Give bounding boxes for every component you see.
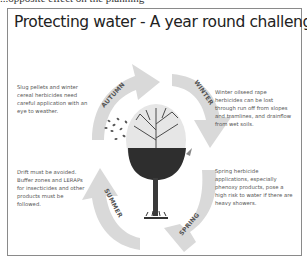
summer-arrow-icon: SUMMER	[82, 168, 140, 250]
tree-icon	[126, 104, 192, 218]
winter-note: Winter oilseed rape herbicides can be lo…	[215, 88, 295, 128]
falling-leaves-icon	[104, 117, 127, 140]
summer-note: Drift must be avoided. Buffer zones and …	[17, 168, 85, 208]
season-cycle-diagram: AUTUMN WINTER SPRING SUMMER	[0, 0, 307, 262]
spring-note: Spring herbicide applications, especiall…	[215, 167, 293, 207]
autumn-note: Slug pellets and winter cereal herbicide…	[17, 83, 89, 115]
spring-arrow-icon: SPRING	[164, 170, 216, 252]
